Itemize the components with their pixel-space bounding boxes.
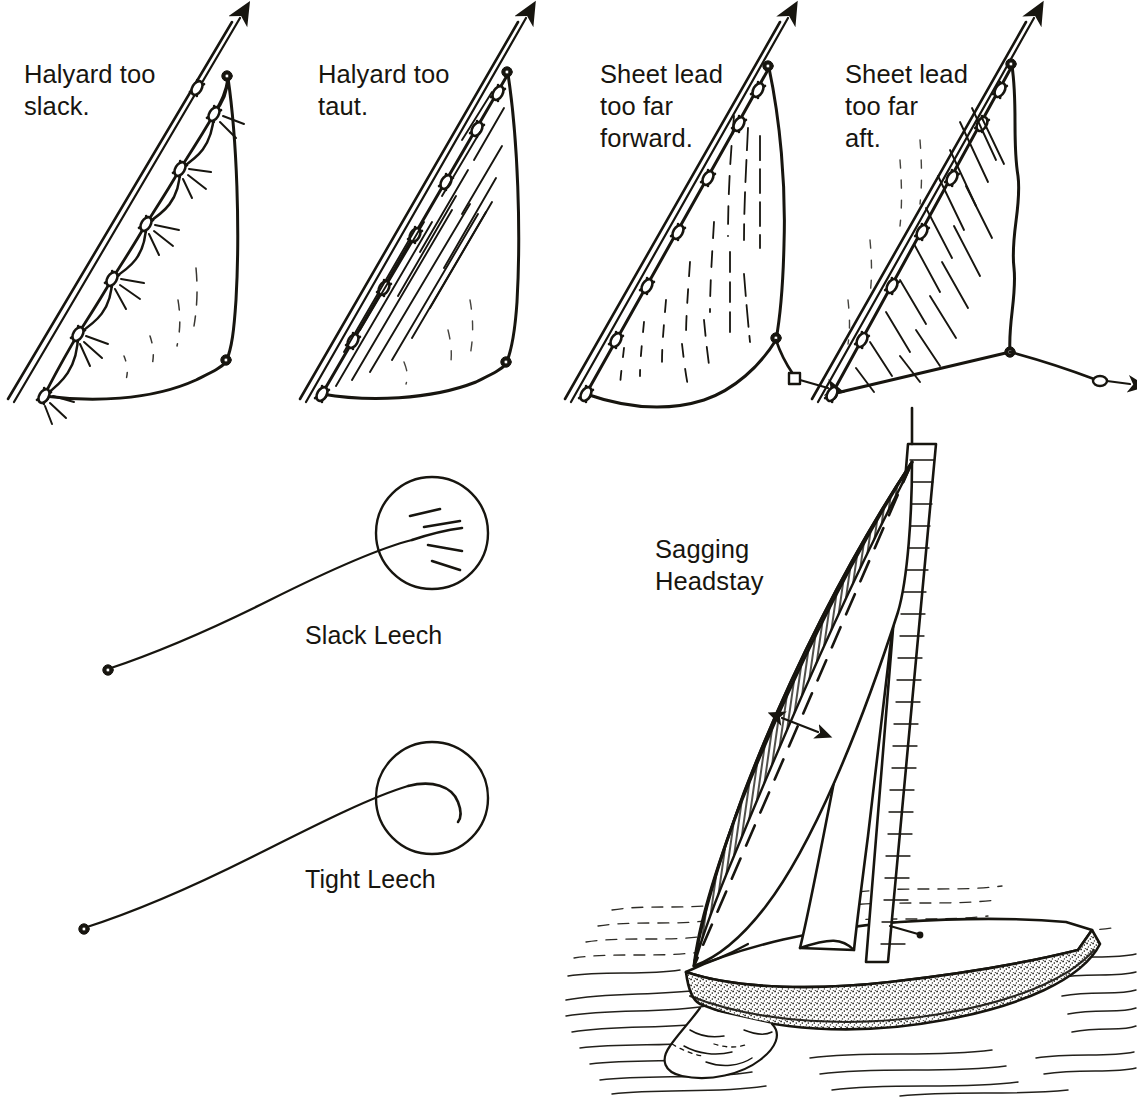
leech-grommet <box>103 665 113 675</box>
label-halyard-too-taut: Halyard too taut. <box>318 58 450 122</box>
label-sagging-headstay: Sagging Headstay <box>655 533 764 597</box>
label-slack-leech: Slack Leech <box>305 620 442 652</box>
label-sheet-lead-too-far-aft: Sheet lead too far aft. <box>845 58 968 154</box>
clew-grommet <box>221 355 231 365</box>
head-grommet <box>1006 59 1016 69</box>
leech-grommet <box>79 924 89 934</box>
boom-end-fitting <box>917 932 924 939</box>
sheet-block-icon <box>1093 376 1107 386</box>
label-halyard-too-slack: Halyard too slack. <box>24 58 156 122</box>
label-tight-leech: Tight Leech <box>305 864 436 896</box>
label-sheet-lead-too-far-forward: Sheet lead too far forward. <box>600 58 723 154</box>
clew-grommet <box>501 357 511 367</box>
head-grommet <box>502 67 512 77</box>
head-grommet <box>763 61 773 71</box>
sheet-block-icon <box>789 373 800 384</box>
head-grommet <box>222 71 232 81</box>
illustration-canvas <box>0 0 1137 1107</box>
